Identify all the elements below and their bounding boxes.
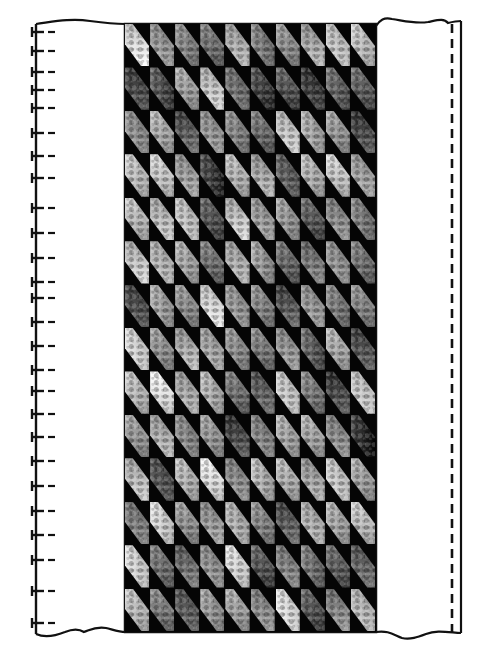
fabric-tile-cell (225, 458, 250, 501)
fabric-tile-cell (200, 111, 225, 154)
fabric-tile (175, 111, 199, 153)
fabric-tile (276, 24, 300, 66)
fabric-tile (301, 589, 325, 631)
fabric-tile (225, 241, 249, 283)
fabric-tile-cell (251, 371, 276, 414)
fabric-tile (251, 458, 275, 500)
fabric-tile-cell (200, 328, 225, 371)
fabric-tile-cell (351, 67, 376, 110)
fabric-tile (125, 198, 149, 240)
fabric-tile (175, 371, 199, 413)
fabric-tile (301, 415, 325, 457)
fabric-tile-cell (251, 545, 276, 588)
fabric-tile-cell (326, 241, 351, 284)
fabric-tile (326, 328, 350, 370)
fabric-tile (351, 241, 375, 283)
fabric-tile (326, 198, 350, 240)
fabric-tile-cell (200, 241, 225, 284)
fabric-tile-cell (251, 111, 276, 154)
fabric-tile-cell (276, 415, 301, 458)
fabric-tile-cell (301, 415, 326, 458)
fabric-tile (225, 545, 249, 587)
fabric-tile (150, 241, 174, 283)
fabric-tile-cell (351, 371, 376, 414)
fabric-tile-cell (200, 545, 225, 588)
fabric-tile (251, 415, 275, 457)
fabric-tile-cell (200, 67, 225, 110)
fabric-tile-cell (351, 415, 376, 458)
fabric-tile (251, 67, 275, 109)
fabric-tile-cell (150, 545, 175, 588)
fabric-tile (276, 415, 300, 457)
fabric-tile (326, 285, 350, 327)
fabric-tile (125, 458, 149, 500)
fabric-tile (175, 328, 199, 370)
quilt-strip-diagram (0, 0, 479, 656)
fabric-tile-cell (175, 589, 200, 632)
fabric-tile-cell (326, 285, 351, 328)
top-wavy-edge-left (36, 20, 125, 24)
fabric-tile (150, 589, 174, 631)
fabric-tile-cell (150, 198, 175, 241)
fabric-tile-cell (150, 67, 175, 110)
fabric-tile-cell (276, 67, 301, 110)
fabric-tile (150, 458, 174, 500)
fabric-tile (351, 328, 375, 370)
fabric-tile (200, 458, 224, 500)
fabric-tile (125, 241, 149, 283)
fabric-tile-cell (125, 589, 150, 632)
fabric-tile (276, 589, 300, 631)
fabric-tile (150, 371, 174, 413)
fabric-tile (175, 415, 199, 457)
fabric-tile (225, 24, 249, 66)
fabric-tile-cell (301, 111, 326, 154)
fabric-tile-cell (276, 371, 301, 414)
fabric-tile-cell (225, 371, 250, 414)
fabric-tile (251, 285, 275, 327)
fabric-tile (351, 458, 375, 500)
fabric-tile (125, 154, 149, 196)
fabric-tile-cell (301, 24, 326, 67)
fabric-tile (276, 458, 300, 500)
fabric-tile (175, 241, 199, 283)
fabric-tile-cell (276, 328, 301, 371)
fabric-tile (326, 67, 350, 109)
fabric-tile (251, 24, 275, 66)
fabric-tile (175, 502, 199, 544)
fabric-tile (150, 502, 174, 544)
fabric-tile (200, 154, 224, 196)
fabric-tile (200, 415, 224, 457)
fabric-tile (150, 67, 174, 109)
fabric-tile-cell (301, 67, 326, 110)
fabric-tile (351, 198, 375, 240)
fabric-tile-cell (175, 285, 200, 328)
fabric-tile-cell (225, 285, 250, 328)
fabric-tile-cell (326, 502, 351, 545)
fabric-tile-cell (276, 285, 301, 328)
fabric-tile (200, 198, 224, 240)
fabric-tile (225, 67, 249, 109)
fabric-tile-cell (150, 241, 175, 284)
fabric-tile (351, 154, 375, 196)
fabric-tile (225, 198, 249, 240)
fabric-tile (150, 24, 174, 66)
fabric-tile-cell (200, 458, 225, 501)
fabric-tile (351, 502, 375, 544)
fabric-tile-cell (301, 371, 326, 414)
fabric-tile-cell (326, 198, 351, 241)
fabric-tile (301, 241, 325, 283)
fabric-tile-cell (301, 198, 326, 241)
fabric-tile (326, 458, 350, 500)
fabric-tile-cell (175, 502, 200, 545)
fabric-tile (125, 24, 149, 66)
fabric-tile (125, 371, 149, 413)
fabric-tile (225, 111, 249, 153)
fabric-tile-cell (351, 24, 376, 67)
fabric-tile-cell (125, 154, 150, 197)
fabric-tile (301, 198, 325, 240)
fabric-tile (276, 154, 300, 196)
fabric-tile (150, 285, 174, 327)
fabric-tile-cell (225, 328, 250, 371)
fabric-tile-cell (200, 154, 225, 197)
fabric-tile (125, 502, 149, 544)
